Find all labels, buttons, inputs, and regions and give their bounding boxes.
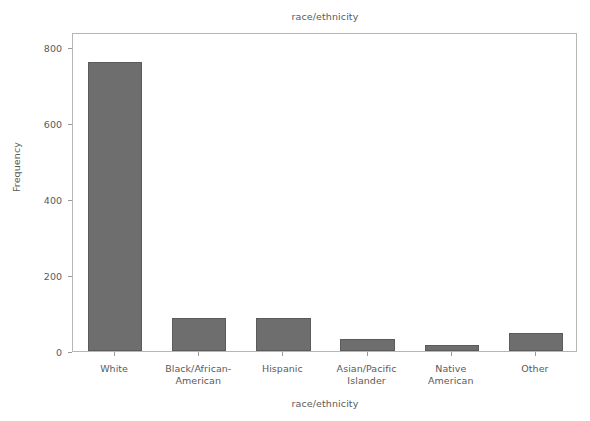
chart-title: race/ethnicity xyxy=(72,11,578,22)
x-tick-label: Asian/Pacific Islander xyxy=(319,363,415,387)
y-tick-label: 600 xyxy=(20,119,62,130)
y-tick-label: 200 xyxy=(20,271,62,282)
x-tick-mark xyxy=(451,352,452,356)
x-tick-label: Native American xyxy=(403,363,499,387)
x-tick-label: White xyxy=(66,363,162,375)
y-tick-label: 400 xyxy=(20,195,62,206)
x-tick-mark xyxy=(198,352,199,356)
x-tick-mark xyxy=(367,352,368,356)
bar-4 xyxy=(340,339,394,351)
x-tick-mark xyxy=(282,352,283,356)
y-tick-label: 0 xyxy=(20,347,62,358)
x-tick-mark xyxy=(114,352,115,356)
x-tick-label: Black/African- American xyxy=(150,363,246,387)
y-tick-mark xyxy=(68,352,72,353)
bar-5 xyxy=(425,345,479,351)
x-tick-mark xyxy=(535,352,536,356)
bar-chart-figure: race/ethnicity Frequency 0200400600800 W… xyxy=(0,0,590,421)
bar-2 xyxy=(172,318,226,351)
bar-1 xyxy=(88,62,142,351)
y-axis-label: Frequency xyxy=(11,142,22,192)
y-tick-label: 800 xyxy=(20,43,62,54)
x-axis-label: race/ethnicity xyxy=(72,398,578,409)
x-tick-label: Other xyxy=(487,363,583,375)
bar-3 xyxy=(256,318,310,351)
bars-layer xyxy=(73,34,576,351)
x-tick-label: Hispanic xyxy=(234,363,330,375)
bar-6 xyxy=(509,333,563,351)
plot-area xyxy=(72,33,577,352)
